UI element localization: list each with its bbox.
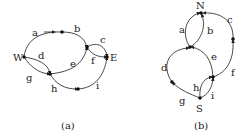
edge-label-b: b	[74, 23, 80, 34]
node-label-W: W	[13, 52, 24, 63]
edge-e	[50, 48, 87, 74]
node	[170, 80, 174, 84]
node	[85, 45, 89, 49]
edge-label-d: d	[161, 62, 168, 73]
edge-label-i: i	[211, 90, 214, 101]
node	[76, 87, 80, 91]
node-label-E: E	[110, 52, 117, 63]
node-label-S: S	[196, 103, 203, 114]
edge-d	[167, 48, 188, 82]
edge-label-a: a	[32, 27, 38, 38]
edge-label-h: h	[51, 83, 58, 94]
node	[211, 75, 215, 79]
node-S	[198, 96, 202, 100]
node	[60, 30, 64, 34]
node	[188, 45, 192, 49]
edge-f	[87, 47, 106, 57]
node-label-N: N	[196, 0, 205, 11]
edge-label-a: a	[179, 24, 185, 35]
edge-e	[192, 47, 213, 77]
edge-label-c: c	[100, 34, 106, 45]
edge-label-e: e	[211, 51, 217, 62]
edge-label-b: b	[207, 25, 213, 36]
figure: W E a b c d e f g h i (a)	[0, 0, 247, 139]
edge-label-c: c	[227, 14, 233, 25]
caption-a: (a)	[61, 120, 75, 131]
edge-label-f: f	[231, 67, 236, 78]
node-N	[199, 11, 203, 15]
node	[48, 72, 52, 76]
edge-b	[62, 32, 87, 47]
node-E	[105, 55, 109, 59]
node	[231, 37, 235, 41]
edge-label-g: g	[26, 72, 33, 83]
edge-label-f: f	[91, 55, 96, 66]
diagram-a: W E a b c d e f g h i (a)	[13, 23, 117, 131]
edge-label-d: d	[38, 50, 45, 61]
edge-label-g: g	[179, 95, 186, 106]
edge-d	[24, 57, 50, 73]
edge-label-h: h	[193, 82, 200, 93]
diagram-b: N S a b c d e f g h i (b)	[161, 0, 236, 131]
edge-b	[190, 15, 204, 47]
edge-label-i: i	[96, 80, 99, 91]
edge-label-e: e	[70, 58, 76, 69]
caption-b: (b)	[194, 120, 208, 131]
